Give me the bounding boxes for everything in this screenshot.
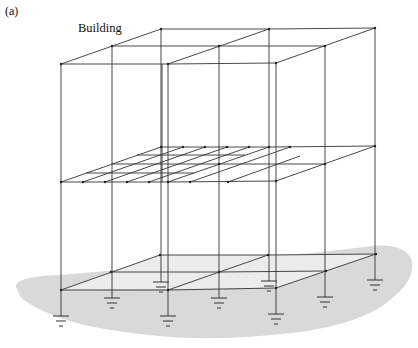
figure: (a) Building [0,0,418,348]
building-frame-diagram [0,0,418,348]
